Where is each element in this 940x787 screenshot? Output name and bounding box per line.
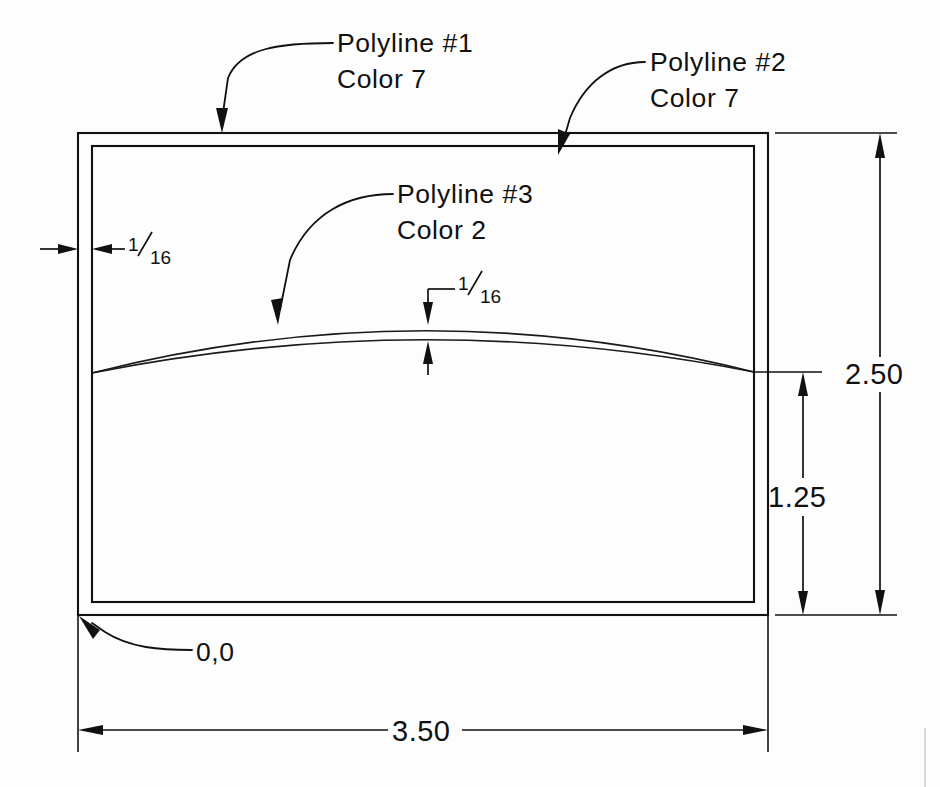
arc-lower-polyline-3 (92, 340, 754, 373)
dim-text-overall-width: 3.50 (392, 715, 450, 747)
dim-arrowhead-arc-band-bottom (423, 341, 433, 364)
dim-arrowhead-arc-height-bottom (798, 591, 808, 615)
arc-upper-polyline-3 (92, 331, 754, 373)
leader-line-origin (92, 623, 192, 650)
leader-arrowhead-origin (79, 616, 100, 639)
dim-text-arc-band: 1 16 (458, 271, 501, 307)
dim-arrowhead-width-left (78, 725, 103, 735)
dim-text-arc-height: 1.25 (768, 481, 826, 513)
leader-origin (79, 616, 192, 650)
arc-frac-denominator: 16 (480, 286, 501, 307)
dimension-overall-width: 3.50 (78, 615, 768, 752)
label-polyline-1-name: Polyline #1 (337, 28, 473, 58)
leader-arrowhead-polyline-1 (216, 108, 228, 133)
dim-arrowhead-wall-inner (92, 244, 112, 254)
leader-polyline-2 (558, 62, 645, 155)
leader-line-polyline-2 (563, 62, 645, 142)
arc-frac-numerator: 1 (458, 273, 469, 294)
drawing-svg: Polyline #1 Color 7 Polyline #2 Color 7 … (0, 0, 940, 787)
label-polyline-2-color: Color 7 (650, 83, 740, 113)
dimension-arc-band: 1 16 (423, 271, 501, 375)
leader-line-polyline-1 (222, 43, 333, 120)
dim-text-overall-height: 2.50 (845, 358, 903, 390)
dim-arrowhead-height-bottom (875, 590, 885, 615)
technical-drawing-canvas: Polyline #1 Color 7 Polyline #2 Color 7 … (0, 0, 940, 787)
dimension-arc-height: 1.25 (754, 372, 826, 615)
dim-arrowhead-arc-height-top (798, 372, 808, 396)
label-polyline-3-name: Polyline #3 (397, 179, 533, 209)
label-origin: 0,0 (196, 637, 235, 667)
leader-line-polyline-3 (280, 194, 393, 310)
label-polyline-1-color: Color 7 (337, 64, 427, 94)
leader-arrowhead-polyline-3 (271, 298, 283, 325)
dim-arrowhead-height-top (875, 133, 885, 158)
dim-text-wall-thickness: 1 16 (128, 232, 171, 268)
leader-polyline-3 (271, 194, 393, 325)
wall-frac-denominator: 16 (150, 247, 171, 268)
wall-frac-numerator: 1 (128, 234, 139, 255)
dimension-wall-thickness: 1 16 (40, 232, 171, 268)
dim-arrowhead-width-right (743, 725, 768, 735)
label-polyline-2-name: Polyline #2 (650, 47, 786, 77)
label-polyline-3-color: Color 2 (397, 215, 487, 245)
dim-arrowhead-wall-outer (58, 244, 78, 254)
leader-polyline-1 (216, 43, 333, 133)
dimension-overall-height: 2.50 (775, 133, 903, 615)
dim-arrowhead-arc-band-top (423, 302, 433, 325)
